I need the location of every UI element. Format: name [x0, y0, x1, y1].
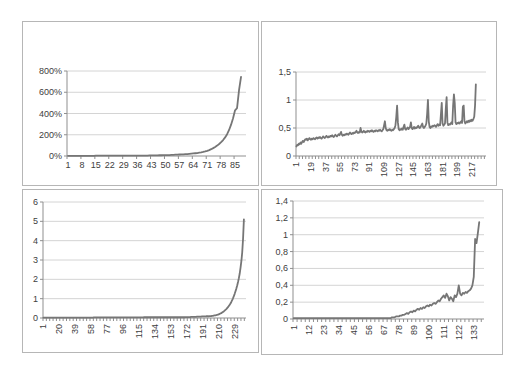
data-series-line [68, 77, 241, 156]
y-tick-label: 600% [39, 87, 62, 97]
x-tick-label: 29 [119, 160, 129, 170]
x-tick-label: 55 [335, 162, 345, 172]
y-tick-label: 6 [33, 197, 38, 207]
y-tick-label: 1,5 [278, 67, 291, 77]
x-tick-label: 73 [350, 162, 360, 172]
x-tick-label: 36 [133, 160, 143, 170]
x-tick-label: 145 [408, 162, 418, 177]
x-tick-label: 109 [379, 162, 389, 177]
x-tick-label: 77 [102, 324, 112, 334]
y-tick-label: 1,2 [275, 213, 288, 223]
y-tick-label: 400% [39, 109, 62, 119]
x-tick-label: 100 [424, 325, 434, 340]
x-tick-label: 163 [423, 162, 433, 177]
chart-svg-top-right: 00,511,511937557391109127145163181199217 [262, 22, 496, 185]
x-tick-label: 89 [409, 325, 419, 335]
x-tick-label: 15 [91, 160, 101, 170]
x-tick-label: 71 [202, 160, 212, 170]
data-series-line [294, 222, 480, 318]
x-tick-label: 217 [467, 162, 477, 177]
x-tick-label: 96 [118, 324, 128, 334]
x-tick-label: 12 [304, 325, 314, 335]
y-tick-label: 200% [39, 130, 62, 140]
x-tick-label: 58 [86, 324, 96, 334]
x-tick-label: 45 [349, 325, 359, 335]
x-tick-label: 172 [182, 324, 192, 339]
y-tick-label: 0,8 [275, 247, 288, 257]
data-series-line [43, 219, 243, 317]
x-tick-label: 23 [319, 325, 329, 335]
x-tick-label: 39 [70, 324, 80, 334]
x-tick-label: 56 [364, 325, 374, 335]
x-tick-label: 153 [166, 324, 176, 339]
x-tick-label: 122 [454, 325, 464, 340]
chart-svg-bottom-left: 012345612039587796115134153172191210229 [23, 190, 258, 352]
y-tick-label: 5 [33, 216, 38, 226]
x-tick-label: 134 [150, 324, 160, 339]
x-tick-label: 181 [438, 162, 448, 177]
chart-svg-top-left: 0%200%400%600%800%1815222936435057647178… [23, 22, 258, 185]
x-tick-label: 127 [394, 162, 404, 177]
y-tick-label: 0,5 [278, 123, 291, 133]
x-tick-label: 67 [379, 325, 389, 335]
y-tick-label: 1 [286, 95, 291, 105]
x-tick-label: 191 [198, 324, 208, 339]
x-tick-label: 85 [230, 160, 240, 170]
x-tick-label: 50 [160, 160, 170, 170]
x-tick-label: 57 [174, 160, 184, 170]
x-tick-label: 22 [105, 160, 115, 170]
x-tick-label: 1 [65, 160, 70, 170]
x-tick-label: 78 [216, 160, 226, 170]
x-tick-label: 111 [439, 325, 449, 339]
x-tick-label: 8 [79, 160, 84, 170]
x-tick-label: 199 [452, 162, 462, 177]
y-tick-label: 0% [49, 151, 62, 161]
x-tick-label: 210 [214, 324, 224, 339]
chart-panel-top-right: 00,511,511937557391109127145163181199217 [261, 21, 497, 186]
y-tick-label: 800% [39, 66, 62, 76]
chart-panel-bottom-left: 012345612039587796115134153172191210229 [22, 189, 259, 353]
x-tick-label: 19 [306, 162, 316, 172]
x-tick-label: 78 [394, 325, 404, 335]
y-tick-label: 0 [33, 313, 38, 323]
x-tick-label: 34 [334, 325, 344, 335]
y-tick-label: 0,2 [275, 297, 288, 307]
chart-panel-bottom-right: 00,20,40,60,811,21,411223344556677889100… [261, 189, 503, 355]
chart-panel-top-left: 0%200%400%600%800%1815222936435057647178… [22, 21, 259, 186]
y-tick-label: 0 [283, 314, 288, 324]
x-tick-label: 1 [291, 162, 301, 167]
x-tick-label: 64 [188, 160, 198, 170]
x-tick-label: 115 [134, 324, 144, 338]
x-tick-label: 20 [54, 324, 64, 334]
y-tick-label: 1,4 [275, 196, 288, 206]
worksheet-canvas: 0%200%400%600%800%1815222936435057647178… [0, 0, 520, 376]
x-tick-label: 37 [321, 162, 331, 172]
x-tick-label: 1 [38, 324, 48, 329]
x-tick-label: 133 [469, 325, 479, 340]
y-tick-label: 0,6 [275, 263, 288, 273]
x-tick-label: 43 [147, 160, 157, 170]
y-tick-label: 3 [33, 255, 38, 265]
y-tick-label: 0 [286, 151, 291, 161]
y-tick-label: 0,4 [275, 280, 288, 290]
y-tick-label: 1 [33, 294, 38, 304]
x-tick-label: 91 [364, 162, 374, 172]
chart-svg-bottom-right: 00,20,40,60,811,21,411223344556677889100… [262, 190, 502, 354]
x-tick-label: 229 [230, 324, 240, 339]
y-tick-label: 2 [33, 274, 38, 284]
y-tick-label: 1 [283, 230, 288, 240]
x-tick-label: 1 [289, 325, 299, 330]
y-tick-label: 4 [33, 236, 38, 246]
data-series-line [296, 84, 475, 146]
